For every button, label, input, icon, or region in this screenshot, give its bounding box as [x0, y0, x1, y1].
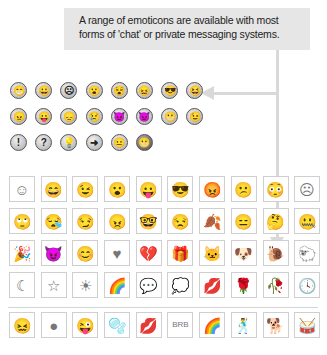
emoticon-tile[interactable]: 🤓	[136, 208, 162, 234]
emoticon-tile[interactable]: 😖	[9, 312, 35, 338]
big-smile-icon: 😄	[44, 182, 63, 197]
arrow-icon[interactable]: ➜	[86, 134, 103, 151]
emoticon-tile[interactable]: 🥁	[294, 312, 320, 338]
emoticon-tile[interactable]: 😄	[41, 176, 67, 202]
idea-icon[interactable]: 💡	[60, 134, 77, 151]
emoticon-tile[interactable]: 🐱	[199, 240, 225, 266]
embarrassed-icon[interactable]: 😬	[161, 108, 178, 125]
emoticon-tile[interactable]: 🌹	[231, 272, 257, 298]
devil-icon[interactable]: 😈	[111, 108, 128, 125]
angry-icon[interactable]: 😠	[10, 108, 27, 125]
girl-chat-icon: 💬	[139, 278, 158, 293]
emoticon-tile[interactable]: 🐕	[263, 312, 289, 338]
tongue-out-icon[interactable]: 😛	[35, 108, 52, 125]
emoticon-tile[interactable]: 🌈	[104, 272, 130, 298]
emoticon-tile[interactable]: ☺	[9, 176, 35, 202]
emoticon-tile[interactable]: 😏	[72, 208, 98, 234]
emoticon-tile[interactable]: 💔	[136, 240, 162, 266]
surprised-icon[interactable]: 😮	[86, 82, 103, 99]
callout-text-line1: A range of emoticons are available with …	[79, 13, 302, 27]
sad-icon[interactable]: 😞	[60, 108, 77, 125]
crying-icon[interactable]: 😢	[86, 108, 103, 125]
emoticon-tile[interactable]: 🍂	[199, 208, 225, 234]
emoticon-tile[interactable]: ☀	[72, 272, 98, 298]
eye-roll-icon: 🙄	[13, 214, 32, 229]
dog-icon: 🐶	[234, 246, 253, 261]
neutral-icon[interactable]: 😐	[111, 134, 128, 151]
heart-icon: ♥	[113, 246, 122, 261]
emoticon-tile[interactable]: 🕺	[231, 312, 257, 338]
emoticon-tile[interactable]: 😉	[72, 176, 98, 202]
emoticon-tile[interactable]: 🎉	[9, 240, 35, 266]
clock-icon: 🕓	[298, 278, 317, 293]
grin-icon[interactable]: 😀	[35, 82, 52, 99]
emoticon-tile[interactable]: 😎	[167, 176, 193, 202]
emoticon-tile[interactable]: 💬	[136, 272, 162, 298]
dog-icon: 🐕	[266, 318, 285, 333]
emoticon-tile[interactable]: 😛	[136, 176, 162, 202]
emoticon-tile[interactable]: 🥀	[263, 272, 289, 298]
wink-icon[interactable]: 😉	[186, 108, 203, 125]
winking-face-icon: 😜	[76, 318, 95, 333]
emoticon-tile[interactable]: 💋	[199, 272, 225, 298]
emoticon-tile[interactable]: 😜	[72, 312, 98, 338]
large-emoticon-row: 🙄😪😏😠🤓😒🍂😑🤔🤐	[9, 205, 326, 237]
emoticon-tile[interactable]: 🐌	[263, 240, 289, 266]
frown-icon[interactable]: ☹	[60, 82, 77, 99]
emoticon-tile[interactable]: ♥	[104, 240, 130, 266]
big-grin-icon[interactable]: 😁	[10, 82, 27, 99]
teeth-grin-icon[interactable]: 😬	[136, 134, 153, 151]
emoticon-tile[interactable]: 😳	[263, 176, 289, 202]
moon-icon: ☾	[16, 278, 29, 293]
emoticon-tile[interactable]: 🌈	[199, 312, 225, 338]
emoticon-tile[interactable]: 🕓	[294, 272, 320, 298]
emoticon-tile[interactable]: ●	[41, 312, 67, 338]
smirk-icon: 😏	[76, 214, 95, 229]
emoticon-tile[interactable]: 🎁	[167, 240, 193, 266]
small-emoticon-row: 😠😛😞😢😈👿😬😉	[10, 103, 212, 129]
emoticon-tile[interactable]: 😡	[199, 176, 225, 202]
emoticon-tile[interactable]: 🫧	[104, 312, 130, 338]
emoticon-tile[interactable]: 🤐	[294, 208, 320, 234]
sun-icon: ☀	[79, 278, 92, 293]
wink-icon: 😉	[76, 182, 95, 197]
nerd-icon: 🤓	[139, 214, 158, 229]
rose-icon: 🌹	[234, 278, 253, 293]
emoticon-tile[interactable]: ☹	[294, 176, 320, 202]
emoticon-tile[interactable]: 🤔	[263, 208, 289, 234]
disappointed-icon: 😑	[234, 214, 253, 229]
emoticon-tile[interactable]: ☾	[9, 272, 35, 298]
emoticon-tile[interactable]: 😈	[41, 240, 67, 266]
emoticon-tile[interactable]: 😪	[41, 208, 67, 234]
wavy-mouth-icon[interactable]: 😖	[136, 82, 153, 99]
sunglasses-icon[interactable]: 😎	[161, 82, 178, 99]
surprised-icon: 😮	[108, 182, 127, 197]
emoticon-tile[interactable]: 💋	[136, 312, 162, 338]
exclamation-icon[interactable]: !	[10, 134, 27, 151]
emoticon-tile[interactable]: 💭	[167, 272, 193, 298]
animated-emoticon-row: 😖●😜🫧💋BRB🌈🕺🐕🥁	[9, 312, 326, 338]
laughing-icon[interactable]: 😆	[186, 82, 203, 99]
dizzy-icon[interactable]: 😵	[111, 82, 128, 99]
lips-icon: 💋	[203, 278, 222, 293]
leaf-icon: 🍂	[203, 214, 222, 229]
evil-icon[interactable]: 👿	[136, 108, 153, 125]
question-icon[interactable]: ?	[35, 134, 52, 151]
emoticon-tile[interactable]: 😑	[231, 208, 257, 234]
party-icon: 🎉	[13, 246, 32, 261]
drums-icon: 🥁	[298, 318, 317, 333]
sealed-lips-icon: 🤐	[298, 214, 317, 229]
emoticon-tile[interactable]: 🙄	[9, 208, 35, 234]
emoticon-tile[interactable]: ☆	[41, 272, 67, 298]
emoticon-tile[interactable]: 🐑	[294, 240, 320, 266]
emoticon-tile[interactable]: 😕	[231, 176, 257, 202]
snail-icon: 🐌	[266, 246, 285, 261]
sheep-icon: 🐑	[298, 246, 317, 261]
broken-heart-icon: 💔	[139, 246, 158, 261]
emoticon-tile[interactable]: BRB	[167, 312, 193, 338]
emoticon-tile[interactable]: 😊	[72, 240, 98, 266]
emoticon-tile[interactable]: 😮	[104, 176, 130, 202]
emoticon-tile[interactable]: 🐶	[231, 240, 257, 266]
emoticon-tile[interactable]: 😠	[104, 208, 130, 234]
emoticon-tile[interactable]: 😒	[167, 208, 193, 234]
